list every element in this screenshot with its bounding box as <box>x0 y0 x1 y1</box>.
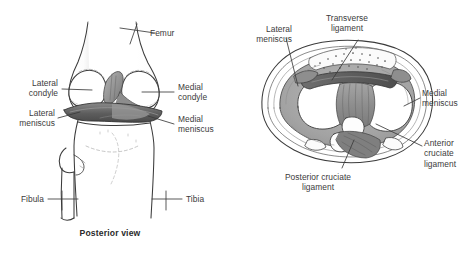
label-lateral-meniscus: Lateral meniscus <box>0 108 55 129</box>
label-medial-meniscus: Medial meniscus <box>178 114 236 135</box>
panel-top-view: Lateral meniscus Transverse ligament Med… <box>236 0 472 255</box>
caption-posterior-view: Posterior view <box>30 228 190 238</box>
label-medial-condyle: Medial condyle <box>178 82 236 103</box>
label-femur: Femur <box>150 28 210 38</box>
label-posterior-cruciate-ligament: Posterior cruciate ligament <box>260 172 376 193</box>
label-anterior-cruciate-ligament: Anterior cruciate ligament <box>424 138 472 169</box>
label-tibia: Tibia <box>186 194 230 204</box>
label-transverse-ligament: Transverse ligament <box>312 13 382 34</box>
label-lateral-meniscus-top: Lateral meniscus <box>234 24 292 45</box>
label-fibula: Fibula <box>2 194 44 204</box>
label-lateral-condyle: Lateral condyle <box>0 78 58 99</box>
knee-anatomy-figure: Femur Lateral condyle Lateral meniscus M… <box>0 0 472 255</box>
panel-posterior-view: Femur Lateral condyle Lateral meniscus M… <box>0 0 236 255</box>
label-medial-meniscus-top: Medial meniscus <box>422 88 472 109</box>
